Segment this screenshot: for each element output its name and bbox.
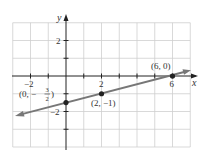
graph: x y −2 2 6 2 −2 (6, 0) (2, −1) (0, − 3 2… (0, 0, 207, 157)
point-label-2-neg1: (2, −1) (91, 98, 116, 108)
tick-label-x-6: 6 (170, 79, 175, 89)
point-6-0 (170, 73, 175, 78)
y-axis-label: y (56, 12, 62, 23)
y-axis-arrow-icon (64, 14, 69, 21)
point-label-a-suffix: ) (51, 89, 54, 99)
point-label-a-prefix: (0, − (19, 89, 36, 99)
tick-label-y-neg2: −2 (50, 107, 60, 117)
point-label-a-numerator: 3 (46, 86, 49, 93)
point-0-neg1.5 (63, 100, 68, 105)
point-label-6-0: (6, 0) (151, 61, 171, 71)
point-label-a-denominator: 2 (46, 95, 49, 102)
point-2-neg1 (99, 91, 104, 96)
axes (12, 17, 196, 150)
tick-label-y-2: 2 (56, 36, 61, 46)
tick-label-x-neg2: −2 (24, 79, 34, 89)
x-axis-label: x (191, 77, 197, 88)
tick-label-x-2: 2 (99, 79, 104, 89)
line-arrow-right-icon (183, 69, 192, 75)
